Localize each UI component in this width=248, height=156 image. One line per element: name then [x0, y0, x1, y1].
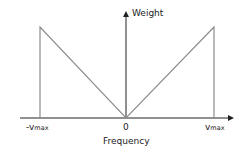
chart-canvas [0, 0, 248, 156]
y-axis-label: Weight [132, 8, 163, 18]
y-axis-arrow-icon [123, 11, 129, 17]
ramp-filter-line [40, 27, 214, 118]
tick-pos-vmax-sub: max [210, 124, 224, 132]
tick-pos-vmax: vmax [205, 122, 225, 132]
x-axis-arrow-icon [228, 115, 234, 121]
tick-neg-vmax-sub: max [34, 124, 48, 132]
tick-neg-vmax: -vmax [26, 122, 49, 132]
x-axis-label: Frequency [103, 136, 150, 146]
tick-zero: 0 [123, 122, 129, 132]
